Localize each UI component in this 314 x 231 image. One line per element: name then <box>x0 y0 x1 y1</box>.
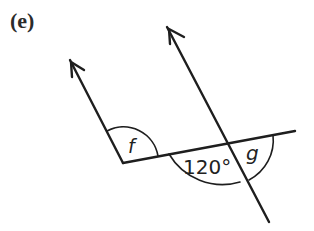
angle-g-label: g <box>246 141 259 165</box>
left-parallel-line <box>70 60 123 163</box>
angle-f-label: f <box>128 135 138 157</box>
angle-120-label: 120° <box>183 155 231 179</box>
geometry-figure: (e) f 120° g <box>0 0 314 231</box>
right-parallel-line <box>167 27 269 222</box>
parallel-lines-diagram: f 120° g <box>0 0 314 231</box>
